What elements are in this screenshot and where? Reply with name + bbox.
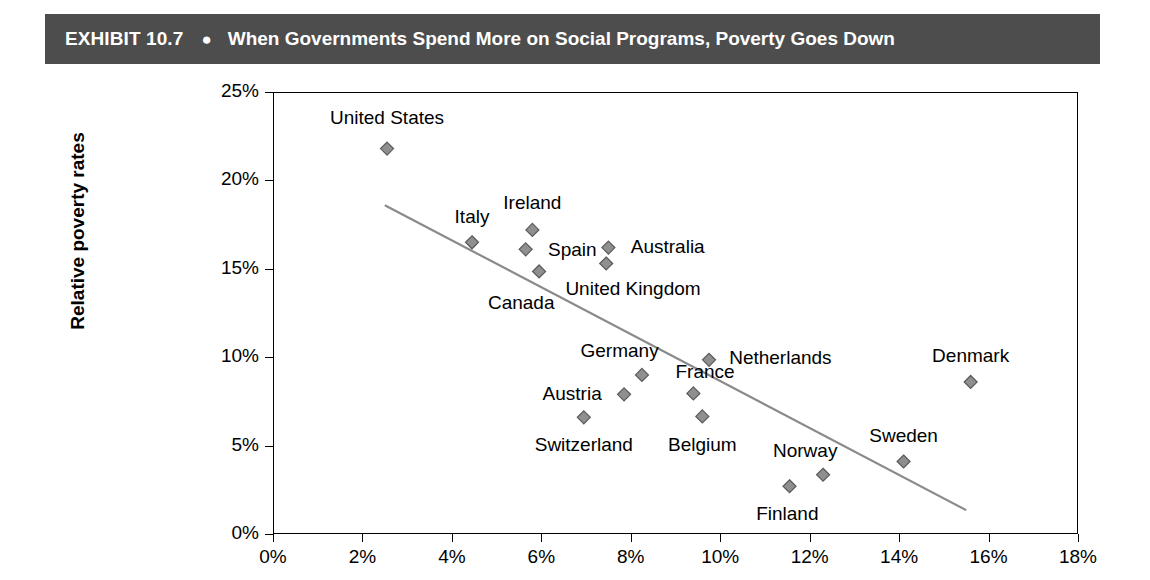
data-point-marker[interactable] xyxy=(600,257,613,270)
data-point-marker[interactable] xyxy=(533,265,546,278)
x-axis-tick-mark xyxy=(810,534,811,542)
data-point-marker[interactable] xyxy=(466,236,479,249)
y-axis-tick-label: 15% xyxy=(221,257,259,279)
data-point-label: Finland xyxy=(756,504,818,523)
y-axis-tick-mark xyxy=(265,357,273,358)
data-point-marker[interactable] xyxy=(783,480,796,493)
x-axis-tick-mark xyxy=(362,534,363,542)
y-axis-tick-label: 10% xyxy=(221,345,259,367)
bullet-icon: ● xyxy=(201,31,211,48)
x-axis-tick-label: 10% xyxy=(701,546,739,568)
data-point-label: Italy xyxy=(455,207,490,226)
data-point-marker[interactable] xyxy=(519,243,532,256)
data-point-label: Germany xyxy=(581,341,659,360)
y-axis-title: Relative poverty rates xyxy=(67,101,89,361)
data-point-marker[interactable] xyxy=(381,142,394,155)
data-point-marker[interactable] xyxy=(696,410,709,423)
y-axis-tick-mark xyxy=(265,92,273,93)
y-axis-tick-label: 20% xyxy=(221,168,259,190)
x-axis-tick-label: 18% xyxy=(1059,546,1097,568)
x-axis-tick-mark xyxy=(273,534,274,542)
y-axis-tick-mark xyxy=(265,269,273,270)
x-axis-tick-label: 14% xyxy=(880,546,918,568)
x-axis-tick-label: 16% xyxy=(970,546,1008,568)
x-axis-tick-label: 6% xyxy=(528,546,555,568)
plot-layer: United StatesItalyIrelandSpainCanadaAust… xyxy=(273,92,1078,534)
data-point-label: Australia xyxy=(631,237,705,256)
x-axis-tick-label: 12% xyxy=(791,546,829,568)
data-point-marker[interactable] xyxy=(897,455,910,468)
x-axis-tick-mark xyxy=(631,534,632,542)
y-axis-tick-mark xyxy=(265,446,273,447)
x-axis-tick-mark xyxy=(541,534,542,542)
data-point-label: Canada xyxy=(488,293,555,312)
y-axis-tick-mark xyxy=(265,180,273,181)
exhibit-number: EXHIBIT 10.7 xyxy=(65,28,183,50)
data-point-label: Norway xyxy=(773,441,837,460)
x-axis-tick-label: 4% xyxy=(438,546,465,568)
exhibit-title: When Governments Spend More on Social Pr… xyxy=(228,28,895,50)
data-point-label: United States xyxy=(330,108,444,127)
data-point-label: Denmark xyxy=(932,346,1009,365)
data-point-label: United Kingdom xyxy=(565,279,700,298)
data-point-label: Belgium xyxy=(668,435,737,454)
y-axis-tick-mark xyxy=(265,534,273,535)
x-axis-tick-label: 0% xyxy=(259,546,286,568)
data-point-label: France xyxy=(676,362,735,381)
plot-svg xyxy=(273,92,1078,534)
x-axis-tick-mark xyxy=(899,534,900,542)
data-point-marker[interactable] xyxy=(577,411,590,424)
data-point-label: Sweden xyxy=(869,426,938,445)
data-point-marker[interactable] xyxy=(687,387,700,400)
exhibit-header-bar: EXHIBIT 10.7 ● When Governments Spend Mo… xyxy=(45,14,1100,64)
x-axis-tick-label: 2% xyxy=(349,546,376,568)
y-axis-tick-label: 0% xyxy=(232,522,259,544)
x-axis-tick-mark xyxy=(989,534,990,542)
data-point-marker[interactable] xyxy=(817,468,830,481)
scatter-chart: Relative poverty rates 0%5%10%15%20%25% … xyxy=(0,70,1150,580)
data-point-label: Netherlands xyxy=(729,348,831,367)
x-axis-tick-mark xyxy=(720,534,721,542)
data-point-marker[interactable] xyxy=(526,223,539,236)
data-point-label: Spain xyxy=(548,240,597,259)
x-axis-tick-mark xyxy=(452,534,453,542)
data-point-marker[interactable] xyxy=(635,368,648,381)
x-axis-tick-label: 8% xyxy=(617,546,644,568)
data-point-marker[interactable] xyxy=(602,241,615,254)
data-point-label: Switzerland xyxy=(535,435,633,454)
data-point-marker[interactable] xyxy=(964,375,977,388)
y-axis-tick-label: 5% xyxy=(232,434,259,456)
data-point-marker[interactable] xyxy=(618,388,631,401)
y-axis-tick-label: 25% xyxy=(221,80,259,102)
data-point-label: Ireland xyxy=(503,193,561,212)
x-axis-tick-mark xyxy=(1078,534,1079,542)
data-point-label: Austria xyxy=(543,384,602,403)
